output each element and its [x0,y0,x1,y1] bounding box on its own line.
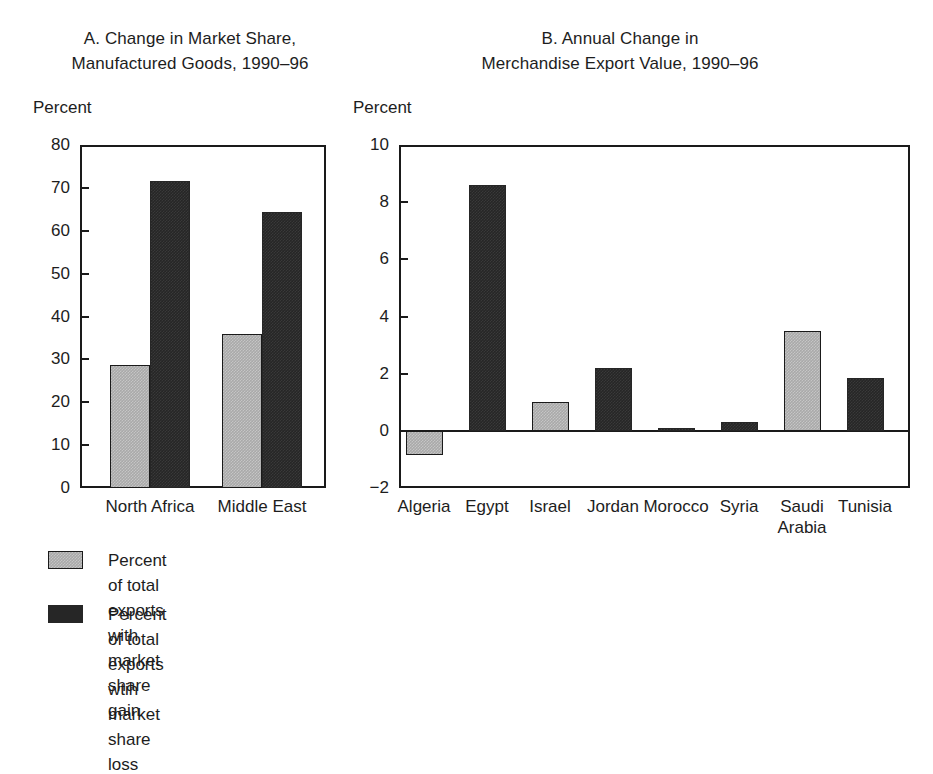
panel-a-bar [110,365,150,488]
panel-b-y-tick-label: 2 [353,364,389,384]
panel-a-y-tick-label: 50 [26,264,70,284]
panel-a-y-tick-label: 40 [26,307,70,327]
panel-b-y-tick-mark [399,316,408,318]
panel-b-y-tick-label: 10 [353,135,389,155]
legend-item-label: Percent of total exports wtih market sha… [108,602,167,774]
legend-swatch-gain [48,551,83,569]
panel-a-bar [222,334,262,488]
panel-a-y-tick-label: 30 [26,349,70,369]
panel-b-bar [721,422,758,431]
panel-b-bar [784,331,821,431]
panel-b-y-tick-label: −2 [353,478,389,498]
panel-a-title: A. Change in Market Share, Manufactured … [20,26,360,76]
panel-a-y-tick-label: 60 [26,221,70,241]
panel-b-bar [658,428,695,431]
panel-a-bar [150,181,190,488]
panel-b-bar [469,185,506,431]
panel-b-x-tick-label: Tunisia [815,496,915,517]
panel-b-bar [595,368,632,431]
panel-b-y-tick-label: 6 [353,249,389,269]
panel-b-bar [532,402,569,431]
panel-a-y-tick-mark [80,401,89,403]
panel-a-y-tick-label: 80 [26,135,70,155]
panel-a-bar [262,212,302,488]
panel-a-y-tick-mark [80,358,89,360]
panel-a-y-tick-mark [80,187,89,189]
panel-b-title: B. Annual Change in Merchandise Export V… [420,26,820,76]
panel-a-y-tick-mark [80,230,89,232]
panel-a-y-tick-label: 70 [26,178,70,198]
panel-b-y-tick-mark [399,373,408,375]
panel-b-y-tick-label: 8 [353,192,389,212]
panel-b-y-tick-label: 0 [353,421,389,441]
panel-b-y-tick-mark [399,258,408,260]
panel-b-y-axis-caption: Percent [353,98,412,118]
panel-b-bar [406,431,443,455]
panel-b-y-tick-label: 4 [353,307,389,327]
panel-a-y-tick-label: 10 [26,435,70,455]
panel-a-y-axis-caption: Percent [33,98,92,118]
panel-a-y-tick-label: 20 [26,392,70,412]
panel-b-y-tick-mark [399,201,408,203]
panel-a-x-tick-label: Middle East [182,496,342,517]
panel-a-y-tick-mark [80,444,89,446]
panel-a-y-tick-label: 0 [26,478,70,498]
legend-swatch-loss [48,605,83,623]
panel-b-bar [847,378,884,431]
panel-a-y-tick-mark [80,316,89,318]
panel-a-y-tick-mark [80,273,89,275]
